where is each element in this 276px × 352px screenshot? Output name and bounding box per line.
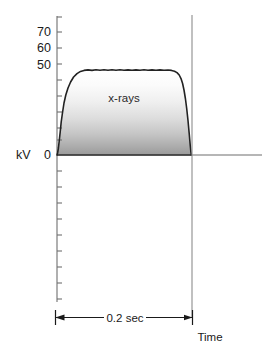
y-tick-label-60: 60 [37, 41, 51, 55]
xray-pulse-area [57, 70, 191, 155]
x-axis-title-time: Time [197, 331, 222, 343]
duration-dimension: 0.2 sec [56, 310, 193, 325]
y-tick-label-70: 70 [37, 25, 51, 39]
y-tick-label-0: 0 [44, 148, 51, 162]
figure-canvas: 70 60 50 0 kV x-rays 0.2 sec Time [0, 0, 276, 352]
y-tick-label-50: 50 [37, 58, 51, 72]
xray-kv-waveform-figure: 70 60 50 0 kV x-rays 0.2 sec Time [0, 0, 276, 352]
xray-pulse-fill [57, 70, 191, 155]
y-axis-title-kv: kV [16, 148, 31, 162]
duration-label: 0.2 sec [106, 312, 143, 324]
xrays-region-label: x-rays [108, 92, 140, 104]
y-axis-ticks-below-zero [57, 171, 62, 299]
